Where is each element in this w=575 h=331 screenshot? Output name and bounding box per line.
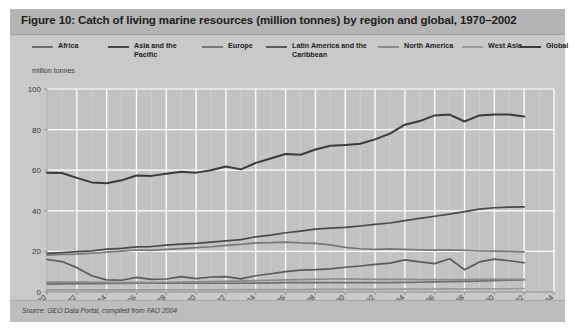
legend-label: Global <box>546 42 568 51</box>
x-tick-label: 2000 <box>478 293 496 300</box>
legend-item: West Asia <box>462 42 522 51</box>
figure-title: Figure 10: Catch of living marine resour… <box>21 14 517 26</box>
legend-item: Global <box>520 42 568 51</box>
x-tick-label: 1992 <box>358 293 376 300</box>
x-tick-label: 2002 <box>507 293 525 300</box>
legend-item: Africa <box>32 42 78 51</box>
x-tick-label: 1972 <box>60 293 78 300</box>
legend-label: Latin America and the Caribbean <box>292 42 367 59</box>
x-tick-label: 1990 <box>328 293 346 300</box>
legend-label: Europe <box>228 42 253 51</box>
x-tick-label: 1986 <box>269 293 287 300</box>
x-tick-label: 1982 <box>209 293 227 300</box>
x-tick-label: 1988 <box>299 293 317 300</box>
x-tick-label: 1994 <box>388 293 406 300</box>
legend-item: Latin America and the Caribbean <box>266 42 367 59</box>
legend-item: North America <box>378 42 453 51</box>
legend-label: Asia and the Pacific <box>134 42 177 59</box>
legend-line-icon <box>202 46 223 48</box>
y-tick-label: 60 <box>32 166 41 175</box>
legend-item: Asia and the Pacific <box>108 42 177 59</box>
y-tick-label: 20 <box>32 247 41 256</box>
legend-line-icon <box>108 46 129 48</box>
x-tick-label: 1976 <box>120 293 138 300</box>
chart-legend: AfricaAsia and the PacificEuropeLatin Am… <box>10 35 565 65</box>
chart-svg: 0204060801001970197219741976197819801982… <box>10 65 565 300</box>
plot-area: 0204060801001970197219741976197819801982… <box>10 65 565 300</box>
x-tick-label: 1984 <box>239 293 257 300</box>
y-tick-label: 40 <box>32 207 41 216</box>
y-tick-label: 80 <box>32 126 41 135</box>
y-tick-label: 100 <box>28 85 42 94</box>
x-tick-label: 1996 <box>418 293 436 300</box>
legend-label: West Asia <box>488 42 522 51</box>
figure-source: Source: GEO Data Portal, compiled from F… <box>22 307 177 314</box>
x-tick-label: 2004 <box>537 293 555 300</box>
legend-line-icon <box>520 46 541 48</box>
legend-item: Europe <box>202 42 253 51</box>
x-tick-label: 1980 <box>179 293 197 300</box>
figure-title-bar: Figure 10: Catch of living marine resour… <box>10 9 565 35</box>
legend-line-icon <box>462 46 483 48</box>
legend-line-icon <box>378 46 399 48</box>
x-tick-label: 1974 <box>90 293 108 300</box>
legend-label: North America <box>404 42 453 51</box>
x-tick-label: 1978 <box>150 293 168 300</box>
legend-line-icon <box>266 46 287 48</box>
legend-line-icon <box>32 46 53 48</box>
x-tick-label: 1998 <box>448 293 466 300</box>
legend-label: Africa <box>58 42 78 51</box>
figure-panel: Figure 10: Catch of living marine resour… <box>10 9 565 322</box>
figure-source-bar: Source: GEO Data Portal, compiled from F… <box>10 300 565 322</box>
